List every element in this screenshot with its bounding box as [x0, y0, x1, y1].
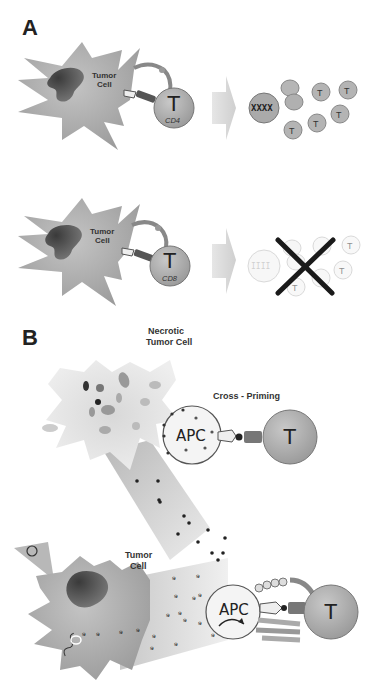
- mhc-molecule: [122, 248, 134, 256]
- arrow-right-icon: [212, 228, 236, 294]
- svg-text:ɘ: ɘ: [174, 592, 178, 599]
- necrotic-label-line2: Tumor Cell: [146, 337, 192, 347]
- svg-text:IIII: IIII: [251, 262, 270, 271]
- tumor-label: Tumor: [92, 71, 116, 80]
- svg-text:ɘ: ɘ: [174, 640, 178, 647]
- svg-text:ɘ: ɘ: [82, 630, 86, 637]
- mhc-molecule: [124, 90, 136, 98]
- panel-b-letter: B: [22, 325, 38, 350]
- svg-text:T: T: [292, 283, 298, 293]
- daughter-cell: [281, 80, 299, 96]
- daughter-cell: [285, 94, 303, 110]
- svg-text:ɘ: ɘ: [192, 594, 196, 601]
- svg-text:ɘ: ɘ: [166, 611, 170, 618]
- antigen-peptide: [281, 605, 287, 611]
- tcr-complex: [244, 431, 262, 443]
- svg-text:T: T: [344, 86, 350, 96]
- tumor-label-line2: Cell: [95, 236, 110, 245]
- apc-direct-priming: APC T: [206, 578, 358, 640]
- necrotic-label: Necrotic: [148, 326, 184, 336]
- cross-priming-label: Cross - Priming: [213, 391, 280, 401]
- adhesion-molecule: [134, 64, 170, 92]
- arrow-right-icon: [212, 76, 236, 140]
- svg-text:ɘ: ɘ: [119, 628, 123, 635]
- svg-text:ɘ: ɘ: [178, 609, 182, 616]
- tumor-label: Tumor: [125, 550, 153, 560]
- adhesion-molecule: [132, 222, 166, 248]
- cross-icon: [278, 240, 333, 293]
- tumor-cell-shape: [18, 42, 140, 150]
- adhesion-knob: [159, 67, 165, 73]
- t-cell-letter: T: [167, 91, 180, 116]
- tumor-label: Tumor: [90, 227, 114, 236]
- svg-text:T: T: [336, 110, 342, 120]
- tumor-label-line2: Cell: [97, 80, 112, 89]
- svg-text:ɘ: ɘ: [196, 572, 200, 579]
- apc-label: APC: [176, 427, 206, 445]
- apc-cross-priming: APC T: [162, 406, 317, 464]
- svg-text:T: T: [289, 126, 295, 136]
- tumor-label-line2: Cell: [130, 561, 147, 571]
- antigen-peptide: [236, 434, 243, 441]
- t-cell-letter: T: [163, 248, 176, 273]
- t-cell-letter: T: [324, 599, 337, 624]
- tumor-cell-cd8-row: Tumor Cell T CD8: [18, 198, 190, 306]
- mhc-molecule: [218, 430, 236, 442]
- t-cell-subtype: CD4: [165, 116, 180, 125]
- t-cell-letter: T: [283, 424, 296, 449]
- svg-text:T: T: [313, 119, 319, 129]
- svg-text:ɘ: ɘ: [172, 574, 176, 581]
- svg-text:ɘ: ɘ: [198, 619, 202, 626]
- costimulatory-chain: [255, 578, 287, 592]
- svg-text:ɘ: ɘ: [198, 591, 202, 598]
- svg-text:ɘ: ɘ: [183, 616, 187, 623]
- tcr-complex: [135, 90, 156, 103]
- svg-text:T: T: [317, 88, 323, 98]
- svg-text:ɘ: ɘ: [96, 630, 100, 637]
- svg-text:T: T: [347, 241, 353, 251]
- svg-text:T: T: [339, 266, 345, 276]
- panel-a-letter: A: [22, 15, 38, 40]
- t-cell-subtype: CD8: [162, 274, 178, 283]
- immunology-diagram: A Tumor Cell T CD4 XXXX T T T T T Tumor …: [0, 0, 378, 689]
- tcr-complex: [288, 602, 306, 614]
- adhesion-knob: [155, 225, 161, 231]
- tumor-cell-cd4-row: Tumor Cell T CD4: [18, 42, 194, 150]
- svg-text:ɘ: ɘ: [150, 644, 154, 651]
- svg-text:ɘ: ɘ: [136, 626, 140, 633]
- mhc-molecule: [260, 602, 282, 614]
- apc-label: APC: [219, 601, 249, 619]
- proliferation-outcome: XXXX T T T T T: [249, 80, 357, 139]
- svg-text:ɘ: ɘ: [152, 632, 156, 639]
- chromosomes-icon: XXXX: [251, 103, 273, 113]
